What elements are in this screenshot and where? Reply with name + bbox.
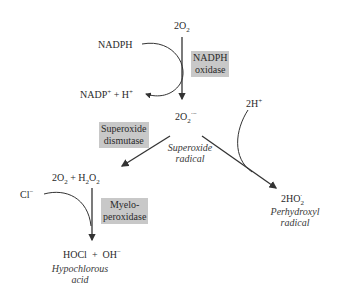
o2-h2o2-c-sub: 2 (96, 178, 100, 186)
o2-h2o2-a: 2O (52, 172, 64, 183)
h-text: + H (111, 89, 129, 100)
enzyme-nadph-oxidase-line1: NADPH (193, 52, 227, 64)
two-h-text: 2H (246, 98, 258, 109)
chloride-superscript: − (29, 188, 33, 196)
enzyme-superoxide-dismutase: Superoxide dismutase (99, 122, 149, 148)
nadp-text: NADP (80, 89, 107, 100)
superoxide-subscript: 2 (187, 117, 191, 125)
node-hocl-oh: HOCl + OH− (63, 249, 121, 260)
node-nadph: NADPH (98, 39, 132, 50)
label-superoxide-radical-line1: Superoxide (160, 142, 220, 153)
enzyme-sod-line2: dismutase (101, 135, 147, 147)
node-superoxide: 2O2·− (175, 111, 197, 122)
label-hypochlorous-line2: acid (40, 274, 120, 285)
h-superscript: + (129, 88, 133, 96)
diagram-canvas: 2O2 NADPH NADP+ + H+ NADPH oxidase 2O2·−… (0, 0, 338, 297)
node-2h: 2H+ (246, 98, 262, 109)
label-superoxide-radical: Superoxide radical (160, 142, 220, 164)
node-o2-h2o2: 2O2 + H2O2 (52, 172, 100, 183)
o2-h2o2-b: + H (68, 172, 86, 183)
enzyme-nadph-oxidase: NADPH oxidase (191, 51, 229, 77)
enzyme-sod-line1: Superoxide (101, 123, 147, 135)
arrow-nadph-curve (142, 43, 183, 96)
label-superoxide-radical-line2: radical (160, 153, 220, 164)
label-hypochlorous-acid: Hypochlorous acid (40, 263, 120, 285)
enzyme-mpo-line1: Myelo- (103, 199, 146, 211)
node-o2: 2O2 (174, 20, 190, 31)
enzyme-myeloperoxidase: Myelo- peroxidase (101, 198, 148, 224)
node-ho2: 2HO2· (281, 193, 302, 204)
enzyme-mpo-line2: peroxidase (103, 211, 146, 223)
arrow-chloride-curve (44, 192, 91, 226)
label-perhydroxyl-line2: radical (265, 217, 325, 228)
label-hypochlorous-line1: Hypochlorous (40, 263, 120, 274)
superoxide-text: 2O (175, 111, 187, 122)
node-chloride: Cl− (20, 189, 33, 200)
ho2-superscript: · (300, 192, 302, 200)
superoxide-superscript: ·− (191, 110, 197, 118)
enzyme-nadph-oxidase-line2: oxidase (193, 64, 227, 76)
label-perhydroxyl-line1: Perhydroxyl (265, 206, 325, 217)
hocl-oh-superscript: − (117, 248, 121, 256)
ho2-text: 2HO (281, 193, 300, 204)
o2-subscript: 2 (186, 26, 190, 34)
label-perhydroxyl-radical: Perhydroxyl radical (265, 206, 325, 228)
node-nadp-h: NADP+ + H+ (80, 89, 133, 100)
o2-text: 2O (174, 20, 186, 31)
hocl-oh-text: HOCl + OH (63, 249, 117, 260)
two-h-superscript: + (258, 97, 262, 105)
